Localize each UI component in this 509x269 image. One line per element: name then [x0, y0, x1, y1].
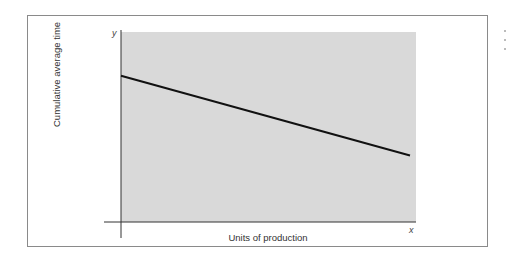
- x-axis-label: Units of production: [228, 232, 307, 243]
- y-axis-label: Cumulative average time: [51, 22, 62, 127]
- chart-plot: [0, 0, 509, 269]
- x-axis-symbol: x: [409, 225, 414, 235]
- y-axis-symbol: y: [112, 28, 117, 38]
- plot-area: [121, 32, 416, 222]
- margin-marks: [504, 30, 507, 55]
